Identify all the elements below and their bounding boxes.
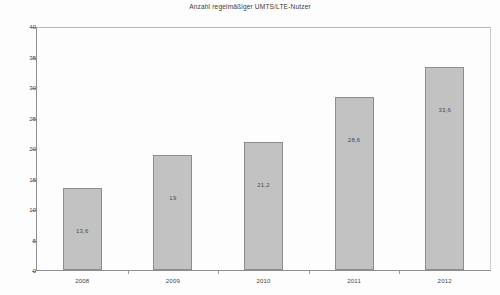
- x-axis-tick-mark: [309, 271, 310, 274]
- x-axis-category-label: 2010: [256, 278, 270, 284]
- y-axis-tick-label: 30: [10, 85, 36, 91]
- x-axis-category-label: 2012: [438, 278, 452, 284]
- x-axis-tick-mark: [218, 271, 219, 274]
- bar[interactable]: [335, 97, 374, 270]
- bar-value-label: 13,6: [63, 228, 102, 234]
- bars-container: 13,61921,228,633,6: [37, 28, 490, 270]
- bar-group: 21,2: [244, 28, 283, 270]
- bar-value-label: 33,6: [425, 107, 464, 113]
- bar-group: 33,6: [425, 28, 464, 270]
- chart-page: Anzahl regelmäßiger UMTS/LTE-Nutzer 0510…: [0, 0, 500, 295]
- x-axis-tick-mark: [128, 271, 129, 274]
- y-axis-tick-label: 5: [10, 238, 36, 244]
- bar-group: 28,6: [335, 28, 374, 270]
- y-axis-tick-label: 15: [10, 177, 36, 183]
- y-axis-tick-label: 10: [10, 207, 36, 213]
- y-axis: 0510152025303540: [0, 27, 36, 271]
- x-axis: 20082009201020112012: [37, 271, 490, 293]
- y-axis-tick-label: 40: [10, 24, 36, 30]
- chart-title: Anzahl regelmäßiger UMTS/LTE-Nutzer: [0, 3, 500, 10]
- y-axis-tick-label: 20: [10, 146, 36, 152]
- bar[interactable]: [244, 142, 283, 270]
- bar-value-label: 28,6: [335, 137, 374, 143]
- bar-value-label: 19: [153, 195, 192, 201]
- bar-group: 19: [153, 28, 192, 270]
- bar[interactable]: [153, 155, 192, 270]
- bar-group: 13,6: [63, 28, 102, 270]
- x-axis-category-label: 2008: [75, 278, 89, 284]
- x-axis-category-label: 2011: [347, 278, 361, 284]
- x-axis-tick-mark: [399, 271, 400, 274]
- y-axis-tick-label: 0: [10, 268, 36, 274]
- bar[interactable]: [425, 67, 464, 270]
- bar-value-label: 21,2: [244, 182, 283, 188]
- x-axis-category-label: 2009: [166, 278, 180, 284]
- y-axis-tick-label: 35: [10, 55, 36, 61]
- y-axis-tick-label: 25: [10, 116, 36, 122]
